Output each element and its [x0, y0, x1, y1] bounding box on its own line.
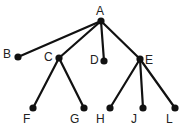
node-j: [139, 104, 146, 111]
edge-a-b: [18, 21, 101, 57]
node-label-h: H: [96, 112, 105, 126]
edge-e-h: [110, 59, 140, 108]
node-c: [55, 54, 62, 61]
node-label-l: L: [166, 112, 173, 126]
node-label-f: F: [23, 112, 30, 126]
node-label-e: E: [145, 53, 153, 67]
node-label-g: G: [70, 112, 79, 126]
node-e: [136, 55, 143, 62]
node-a: [97, 17, 104, 24]
edge-c-f: [33, 58, 59, 108]
node-label-d: D: [90, 53, 99, 67]
node-label-b: B: [3, 47, 11, 61]
node-label-c: C: [44, 50, 53, 64]
node-label-a: A: [96, 4, 104, 18]
node-f: [29, 104, 36, 111]
node-h: [106, 104, 113, 111]
node-d: [100, 57, 107, 64]
node-l: [171, 104, 178, 111]
edge-a-d: [101, 21, 104, 61]
node-b: [14, 53, 21, 60]
edge-c-g: [59, 58, 84, 108]
node-label-j: J: [131, 112, 137, 126]
node-g: [80, 104, 87, 111]
edge-a-e: [101, 21, 140, 59]
edge-e-j: [140, 59, 143, 108]
labels: ABCDEFGHJL: [3, 4, 173, 126]
tree-diagram: ABCDEFGHJL: [0, 0, 185, 126]
